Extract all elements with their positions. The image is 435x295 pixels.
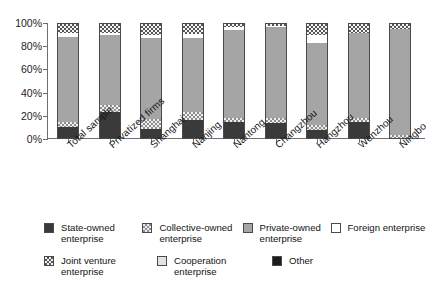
legend-item-other: Other [272,255,373,285]
legend-item-foreign-enterprise: Foreign enterprise [331,222,435,252]
bar-segment-joint-venture-enterprise [183,24,203,34]
legend-item-collective-owned-enterprise: Collective-owned enterprise [142,222,242,252]
legend-label: Joint venture enterprise [61,255,157,278]
y-tick-label: 20% [21,111,42,122]
legend-item-state-owned-enterprise: State-owned enterprise [44,222,142,252]
y-tick-label: 80% [21,41,42,52]
legend-swatch-icon [243,223,253,233]
bar-segment-private-owned-enterprise [224,30,244,118]
legend-swatch-icon [142,223,152,233]
bar-segment-joint-venture-enterprise [141,24,161,35]
bar-segment-joint-venture-enterprise [100,24,120,33]
bar-segment-joint-venture-enterprise [307,24,327,35]
bar-nantong [223,23,245,139]
y-tick-label: 60% [21,64,42,75]
y-tick-label: 40% [21,88,42,99]
bar-segment-joint-venture-enterprise [349,24,369,33]
x-axis-category-labels: Total samplePrivatized firmsShanghaiNanj… [0,142,435,205]
legend-label: Cooperation enterprise [174,255,270,278]
bar-segment-private-owned-enterprise [349,33,369,117]
legend-item-joint-venture-enterprise: Joint venture enterprise [44,255,157,285]
legend-swatch-icon [272,256,282,266]
legend-label: Other [289,255,313,266]
bar-segment-private-owned-enterprise [266,27,286,117]
legend-row-2: Joint venture enterpriseCooperation ente… [44,255,435,285]
legend-swatch-icon [44,256,54,266]
legend-swatch-icon [157,256,167,266]
legend-swatch-icon [44,223,54,233]
bar-segment-joint-venture-enterprise [58,24,78,33]
legend-row-1: State-owned enterpriseCollective-owned e… [44,222,435,252]
legend-label: Foreign enterprise [348,222,426,233]
y-tick-label: 100% [15,18,42,29]
bar-segment-private-owned-enterprise [100,35,120,105]
bar-changzhou [265,23,287,139]
legend-label: Private-owned enterprise [260,222,331,245]
legend-label: Collective-owned enterprise [159,222,242,245]
legend-item-private-owned-enterprise: Private-owned enterprise [243,222,331,252]
bar-segment-private-owned-enterprise [58,37,78,123]
bar-total-sample [57,23,79,139]
y-tick-mark [43,139,48,140]
bar-segment-private-owned-enterprise [183,38,203,112]
legend-label: State-owned enterprise [61,222,142,245]
stacked-bar-chart: 100%80%60%40%20%0% Total samplePrivatize… [0,0,435,295]
legend: State-owned enterpriseCollective-owned e… [44,222,435,288]
legend-item-cooperation-enterprise: Cooperation enterprise [157,255,272,285]
bar-segment-foreign-enterprise [307,35,327,43]
legend-swatch-icon [331,223,341,233]
